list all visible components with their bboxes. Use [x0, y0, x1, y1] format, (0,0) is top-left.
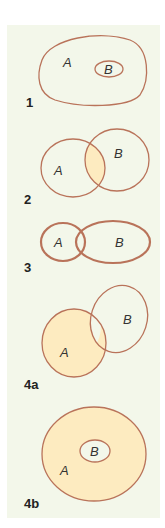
label-a: A	[59, 463, 69, 478]
diagram-4b: A B	[42, 407, 146, 501]
diagram-number-4b: 4b	[24, 496, 39, 511]
label-a: A	[53, 235, 63, 250]
set-a-outline	[39, 36, 147, 106]
diagram-4a: A B	[42, 278, 156, 377]
set-a-outline	[41, 223, 85, 261]
label-a: A	[62, 55, 72, 70]
label-b: B	[114, 146, 123, 161]
label-b: B	[123, 312, 132, 327]
diagram-3: A B	[41, 221, 150, 263]
label-a: A	[59, 345, 69, 360]
label-a: A	[53, 163, 63, 178]
label-b: B	[104, 62, 113, 77]
label-b: B	[90, 444, 99, 459]
diagram-2: A B	[41, 129, 149, 197]
diagram-number-2: 2	[24, 192, 31, 207]
diagram-number-4a: 4a	[24, 377, 38, 392]
diagram-number-3: 3	[24, 260, 31, 275]
diagram-1: A B	[39, 36, 147, 106]
set-b-outline	[76, 221, 150, 263]
label-b: B	[115, 235, 124, 250]
diagram-number-1: 1	[26, 95, 33, 110]
